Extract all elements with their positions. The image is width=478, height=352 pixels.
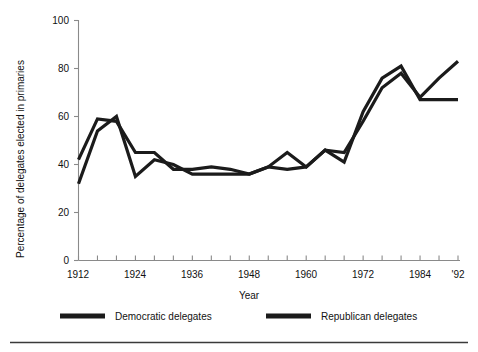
- y-tick-label: 20: [58, 207, 70, 218]
- x-tick-label: 1912: [67, 269, 90, 280]
- y-tick-label: 80: [58, 63, 70, 74]
- line-chart: Percentage of delegates elected in prima…: [0, 0, 478, 352]
- series-line-republican: [79, 61, 459, 174]
- x-tick-label: 1972: [352, 269, 375, 280]
- x-axis-title: Year: [239, 290, 260, 301]
- x-tick-label: 1924: [124, 269, 147, 280]
- legend-label-democratic: Democratic delegates: [115, 311, 212, 322]
- y-tick-label: 100: [52, 15, 69, 26]
- y-tick-label: 60: [58, 111, 70, 122]
- y-axis-title: Percentage of delegates elected in prima…: [15, 60, 26, 258]
- x-tick-marks: [79, 256, 459, 261]
- y-tick-marks: [74, 21, 79, 261]
- y-tick-labels: 100 80 60 40 20 0: [52, 15, 69, 266]
- chart-figure: Percentage of delegates elected in prima…: [0, 0, 478, 352]
- y-tick-label: 40: [58, 159, 70, 170]
- x-tick-labels: 1912 1924 1936 1948 1960 1972 1984 '92: [67, 269, 465, 280]
- legend-label-republican: Republican delegates: [321, 311, 417, 322]
- x-tick-label: 1948: [238, 269, 261, 280]
- x-tick-label: '92: [451, 269, 464, 280]
- x-tick-label: 1936: [181, 269, 204, 280]
- legend: Democratic delegates Republican delegate…: [60, 311, 417, 322]
- y-tick-label: 0: [63, 255, 69, 266]
- x-tick-label: 1984: [409, 269, 432, 280]
- x-tick-label: 1960: [295, 269, 318, 280]
